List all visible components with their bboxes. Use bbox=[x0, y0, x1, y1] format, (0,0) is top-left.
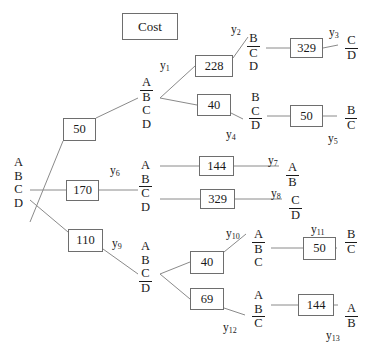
node-letter: C bbox=[345, 34, 358, 49]
node-letter: A bbox=[252, 228, 265, 243]
node-y9: ABCD bbox=[139, 240, 152, 295]
node-label-base: y bbox=[268, 154, 274, 166]
node-label-subscript: 1 bbox=[166, 64, 170, 73]
node-label-y4: y4 bbox=[226, 129, 236, 141]
edge-110-to-y9 bbox=[103, 249, 138, 274]
cost-50-y11: 50 bbox=[303, 237, 336, 260]
node-label-base: y bbox=[326, 329, 332, 341]
node-letter: A bbox=[140, 76, 153, 91]
node-label-base: y bbox=[271, 187, 277, 199]
branch-and-bound-tree-diagram: Cost501701102284032950144329406950144ABC… bbox=[0, 0, 365, 350]
node-letter: B bbox=[345, 104, 357, 119]
edge-y1-to-40 bbox=[160, 98, 197, 105]
node-y5: BC bbox=[345, 104, 357, 132]
node-letter: C bbox=[139, 267, 152, 282]
node-label-subscript: 5 bbox=[334, 137, 338, 146]
cost-69: 69 bbox=[190, 288, 224, 310]
node-label-base: y bbox=[110, 164, 116, 176]
node-letter: B bbox=[247, 32, 260, 47]
node-label-subscript: 11 bbox=[317, 228, 325, 237]
node-label-base: y bbox=[226, 227, 232, 239]
node-y4: BCD bbox=[249, 91, 262, 133]
node-letter: D bbox=[140, 118, 153, 132]
node-letter: D bbox=[139, 282, 152, 296]
node-label-y2: y2 bbox=[231, 24, 241, 36]
node-letter: B bbox=[140, 91, 153, 105]
node-letter: B bbox=[249, 91, 262, 105]
root-node-set: ABCD bbox=[12, 156, 25, 210]
node-label-base: y bbox=[231, 23, 237, 35]
node-label-y1: y1 bbox=[160, 60, 170, 72]
node-label-subscript: 4 bbox=[232, 133, 236, 142]
node-letter: D bbox=[247, 60, 260, 74]
edge-228-to-y2 bbox=[233, 37, 248, 58]
edge-50-to-y1 bbox=[96, 98, 138, 118]
edge-y9-to-40 bbox=[160, 262, 190, 274]
node-label-subscript: 6 bbox=[116, 169, 120, 178]
node-letter: C bbox=[252, 256, 265, 270]
edge-40-to-y4 bbox=[231, 113, 243, 119]
node-label-y10: y10 bbox=[226, 228, 240, 240]
node-label-y7: y7 bbox=[268, 155, 278, 167]
node-letter: C bbox=[139, 187, 152, 201]
node-letter: C bbox=[345, 119, 357, 133]
node-y1: ABCD bbox=[140, 76, 153, 131]
node-letter: C bbox=[140, 104, 153, 118]
node-letter: B bbox=[139, 254, 152, 268]
node-label-base: y bbox=[112, 237, 118, 249]
node-label-base: y bbox=[160, 59, 166, 71]
node-label-base: y bbox=[226, 128, 232, 140]
cost-50-y5: 50 bbox=[290, 105, 323, 127]
node-label-subscript: 13 bbox=[332, 334, 340, 343]
cost-144-y7: 144 bbox=[199, 156, 234, 176]
edge-329-to-y3 bbox=[323, 45, 338, 48]
node-label-subscript: 2 bbox=[237, 28, 241, 37]
node-y6: ABCD bbox=[139, 159, 152, 214]
cost-170: 170 bbox=[66, 180, 99, 201]
node-letter: B bbox=[286, 176, 299, 190]
node-letter: D bbox=[249, 119, 262, 133]
cost-110: 110 bbox=[68, 229, 103, 252]
node-letter: C bbox=[12, 183, 25, 197]
node-label-subscript: 7 bbox=[274, 159, 278, 168]
node-y3: CD bbox=[345, 34, 358, 62]
cost-144-y13: 144 bbox=[298, 294, 334, 316]
node-letter: C bbox=[252, 317, 265, 331]
node-label-y13: y13 bbox=[326, 330, 340, 342]
node-label-y3: y3 bbox=[329, 27, 339, 39]
cost-329-y8: 329 bbox=[200, 189, 235, 209]
node-label-y8: y8 bbox=[271, 188, 281, 200]
node-y8: CD bbox=[289, 194, 302, 222]
cost-40-y10: 40 bbox=[190, 251, 224, 274]
node-y2: BCD bbox=[247, 32, 260, 74]
node-label-subscript: 12 bbox=[229, 326, 237, 335]
node-letter: A bbox=[12, 156, 25, 170]
node-y7: AB bbox=[286, 161, 299, 189]
node-letter: D bbox=[345, 49, 358, 63]
node-label-y11: y11 bbox=[311, 224, 324, 236]
node-letter: A bbox=[139, 240, 152, 254]
cost-50-root-upper: 50 bbox=[63, 118, 96, 141]
node-y12: ABC bbox=[252, 289, 265, 331]
node-letter: A bbox=[252, 289, 265, 303]
node-letter: B bbox=[345, 317, 358, 331]
node-letter: B bbox=[139, 173, 152, 188]
node-letter: C bbox=[345, 243, 357, 257]
node-letter: C bbox=[249, 105, 262, 120]
node-letter: C bbox=[289, 194, 302, 209]
node-y13: AB bbox=[345, 302, 358, 330]
node-letter: A bbox=[139, 159, 152, 173]
node-letter: B bbox=[345, 228, 357, 243]
node-letter: C bbox=[247, 47, 260, 61]
node-label-subscript: 8 bbox=[277, 192, 281, 201]
edge-y9-to-69 bbox=[160, 274, 190, 299]
edge-root-to-50 bbox=[30, 141, 63, 222]
node-y11: BC bbox=[345, 228, 357, 256]
node-label-base: y bbox=[223, 321, 229, 333]
node-letter: B bbox=[12, 170, 25, 184]
node-label-subscript: 10 bbox=[232, 232, 240, 241]
node-label-base: y bbox=[328, 132, 334, 144]
node-label-base: y bbox=[329, 26, 335, 38]
node-letter: D bbox=[12, 197, 25, 211]
node-letter: A bbox=[345, 302, 358, 317]
